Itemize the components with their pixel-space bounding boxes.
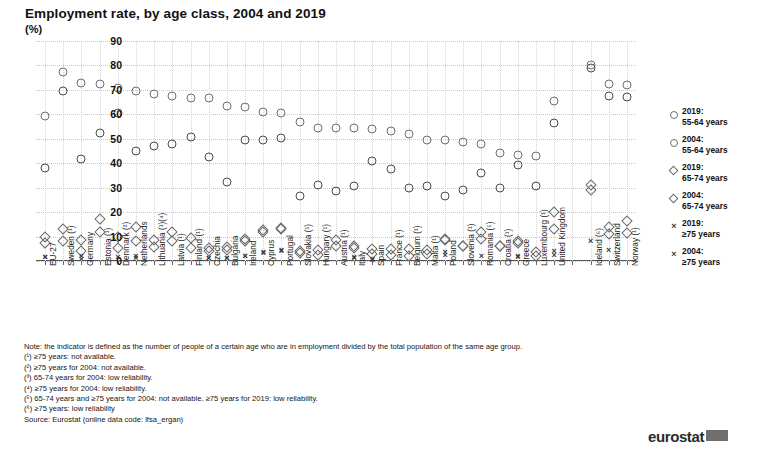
- x-axis-category-label: Netherlands: [139, 221, 149, 266]
- x-axis-category-label: Cyprus: [266, 240, 276, 266]
- x-axis-category-label: Poland: [448, 240, 458, 266]
- legend-label-year: 2004:: [682, 246, 720, 257]
- x-axis-category-label: Slovenia (¹): [466, 224, 476, 266]
- x-axis-tick: [481, 261, 482, 265]
- x-axis-category-label: Spain: [376, 245, 386, 266]
- eurostat-flag-icon: [706, 430, 728, 441]
- legend-label-agegroup: ≥75 years: [682, 257, 720, 268]
- x-axis-tick: [63, 261, 64, 265]
- data-point-circle: [604, 80, 613, 89]
- x-axis-category-label: Czechia: [212, 236, 222, 266]
- data-point-circle: [77, 79, 86, 88]
- x-axis-category-label: Portugal: [285, 235, 295, 266]
- x-gridline: [354, 41, 355, 261]
- x-gridline: [45, 41, 46, 261]
- x-gridline: [154, 41, 155, 261]
- legend-item[interactable]: 2004:55-64 years: [668, 136, 764, 160]
- source-line: Source: Eurostat (online data code: lfsa…: [24, 415, 624, 425]
- legend-label-agegroup: 65-74 years: [682, 201, 728, 212]
- data-point-circle: [186, 132, 195, 141]
- data-point-circle: [404, 183, 413, 192]
- data-point-circle: [586, 63, 595, 72]
- data-point-circle: [550, 118, 559, 127]
- data-point-circle: [477, 168, 486, 177]
- x-gridline: [318, 41, 319, 261]
- legend-label-agegroup: 55-64 years: [682, 117, 728, 128]
- data-point-circle: [222, 101, 231, 110]
- x-axis-category-label: Romania (⁵): [485, 222, 495, 266]
- data-point-circle: [441, 191, 450, 200]
- x-axis-tick: [318, 261, 319, 265]
- y-axis-tick-label: 80: [98, 59, 122, 71]
- x-axis-tick: [281, 261, 282, 265]
- x-axis-tick: [445, 261, 446, 265]
- data-point-circle: [332, 186, 341, 195]
- x-axis-category-label: Iceland (⁶): [594, 228, 604, 266]
- cross-marker-icon: [670, 223, 678, 231]
- x-axis-tick: [500, 261, 501, 265]
- data-point-circle: [350, 124, 359, 133]
- x-axis-category-label: Luxembourg (¹): [539, 209, 549, 266]
- data-point-circle: [604, 91, 613, 100]
- cross-marker-icon: [670, 251, 678, 259]
- x-axis-tick: [572, 261, 573, 265]
- y-axis-tick-label: 60: [98, 108, 122, 120]
- legend-label: 2019:65-74 years: [682, 162, 728, 183]
- x-axis-category-label: France (¹): [394, 230, 404, 266]
- legend-item[interactable]: 2019:≥75 years: [668, 220, 764, 244]
- data-point-circle: [222, 177, 231, 186]
- x-axis-tick: [554, 261, 555, 265]
- x-axis-tick: [300, 261, 301, 265]
- footnote-3: (³) 65-74 years for 2004: low reliabilit…: [24, 373, 624, 383]
- legend-item[interactable]: 2004:65-74 years: [668, 192, 764, 216]
- legend-item[interactable]: 2019:65-74 years: [668, 164, 764, 188]
- x-axis-tick: [427, 261, 428, 265]
- y-axis-tick-label: 90: [98, 35, 122, 47]
- x-axis-category-label: Bulgaria: [230, 236, 240, 266]
- x-gridline: [572, 41, 573, 261]
- data-point-circle: [513, 151, 522, 160]
- data-point-circle: [477, 139, 486, 148]
- x-axis-category-label: Croatia (¹): [503, 229, 513, 266]
- data-point-circle: [168, 139, 177, 148]
- x-axis-tick: [245, 261, 246, 265]
- y-axis-tick-label: 20: [98, 206, 122, 218]
- data-point-circle: [277, 134, 286, 143]
- page-title: Employment rate, by age class, 2004 and …: [25, 6, 326, 21]
- data-point-circle: [459, 138, 468, 147]
- legend-item[interactable]: 2004:≥75 years: [668, 248, 764, 272]
- data-point-circle: [59, 67, 68, 76]
- x-axis-category-label: EU-27: [48, 242, 58, 266]
- data-point-circle: [241, 103, 250, 112]
- x-axis-tick: [191, 261, 192, 265]
- notes-block: Note: the indicator is defined as the nu…: [24, 342, 624, 425]
- x-axis-category-label: Hungary (¹): [321, 224, 331, 266]
- x-axis-category-label: Lithuania (¹)(⁴): [157, 213, 167, 266]
- footnote-4: (⁴) ≥75 years for 2004: low reliability.: [24, 384, 624, 394]
- data-point-circle: [368, 125, 377, 134]
- legend-label: 2004:≥75 years: [682, 246, 720, 267]
- x-gridline: [300, 41, 301, 261]
- circle-marker-icon: [670, 139, 678, 147]
- x-axis-tick: [154, 261, 155, 265]
- unit-label: (%): [25, 23, 42, 35]
- x-gridline: [372, 41, 373, 261]
- x-axis-category-label: Italy: [357, 251, 367, 266]
- data-point-circle: [441, 136, 450, 145]
- data-point-circle: [532, 151, 541, 160]
- x-axis-tick: [336, 261, 337, 265]
- footnote-2: (²) ≥75 years for 2004: not available.: [24, 363, 624, 373]
- legend-label-year: 2004:: [682, 190, 728, 201]
- legend-label-year: 2019:: [682, 106, 728, 117]
- data-point-circle: [168, 92, 177, 101]
- diamond-marker-icon: [670, 167, 677, 174]
- x-axis-category-label: Austria (¹): [339, 230, 349, 266]
- legend-item[interactable]: 2019:55-64 years: [668, 108, 764, 132]
- data-point-circle: [422, 182, 431, 191]
- legend-label: 2004:65-74 years: [682, 190, 728, 211]
- data-point-circle: [41, 163, 50, 172]
- x-axis-category-label: Belgium (¹): [412, 225, 422, 266]
- data-point-circle: [132, 146, 141, 155]
- chart-legend: 2019:55-64 years2004:55-64 years2019:65-…: [668, 108, 764, 276]
- legend-label-agegroup: 55-64 years: [682, 145, 728, 156]
